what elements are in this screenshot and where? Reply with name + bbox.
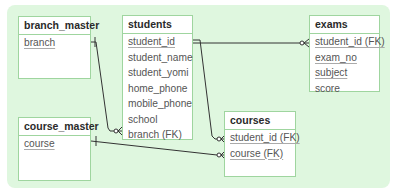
entity-title: courses [225, 112, 295, 130]
entity-exams[interactable]: exams student_id (FK) exam_no subject sc… [309, 15, 380, 92]
entity-field: home_phone [123, 81, 192, 97]
relationship-student-exams [193, 39, 309, 47]
entity-field: student_id [123, 34, 192, 50]
entity-course-master[interactable]: course_master course [18, 117, 91, 181]
relationship-student-courses [200, 40, 225, 143]
entity-field: exam_no [310, 50, 379, 66]
entity-field: school [123, 112, 192, 128]
entity-title: students [123, 16, 192, 34]
entity-field: branch (FK) [123, 127, 192, 143]
entity-field: branch [19, 35, 90, 51]
entity-courses[interactable]: courses student_id (FK) course (FK) [224, 111, 296, 177]
entity-field: subject [310, 65, 379, 81]
entity-field: student_id (FK) [310, 34, 379, 50]
entity-students[interactable]: students student_id student_name student… [122, 15, 193, 140]
entity-field: course [19, 136, 90, 152]
entity-field: score [310, 81, 379, 97]
entity-title: course_master [19, 118, 90, 136]
entity-title: branch_master [19, 17, 90, 35]
entity-field: student_id (FK) [225, 130, 295, 146]
entity-title: exams [310, 16, 379, 34]
entity-branch-master[interactable]: branch_master branch [18, 16, 91, 79]
entity-field: mobile_phone [123, 96, 192, 112]
entity-field: student_yomi [123, 65, 192, 81]
entity-field: course (FK) [225, 146, 295, 162]
entity-field: student_name [123, 50, 192, 66]
